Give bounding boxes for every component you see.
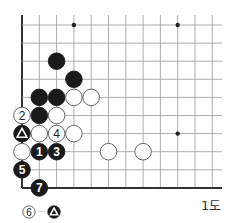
move-number: 5: [19, 163, 26, 177]
black-stone: [31, 89, 48, 106]
move-note: 6···: [23, 206, 60, 218]
go-board-diagram: 241357 6···: [0, 0, 236, 223]
black-stone-icon: [66, 71, 83, 88]
black-stone: [48, 89, 65, 106]
stones-layer: 241357: [14, 53, 152, 196]
star-point-icon: [72, 23, 76, 27]
black-stone: 3: [48, 143, 65, 160]
white-stone: [83, 89, 100, 106]
black-stone: [48, 53, 65, 70]
white-stone: [66, 125, 83, 142]
diagram-caption: 1도: [201, 195, 220, 214]
white-stone: [100, 143, 117, 160]
black-stone: 7: [31, 180, 48, 197]
star-point-icon: [176, 131, 180, 135]
white-stone-icon: [48, 107, 65, 124]
black-stone-icon: [48, 89, 65, 106]
move-number: 3: [53, 145, 60, 159]
white-stone: 2: [14, 107, 31, 124]
black-stone: [14, 125, 31, 142]
white-stone: [48, 107, 65, 124]
star-point-icon: [176, 23, 180, 27]
white-stone-icon: [66, 89, 83, 106]
white-stone-icon: [31, 125, 48, 142]
white-stone: 6: [23, 206, 35, 218]
black-stone: 5: [14, 162, 31, 179]
black-stone: [66, 71, 83, 88]
move-number: 2: [19, 109, 26, 123]
black-stone-icon: [31, 89, 48, 106]
white-stone: 4: [48, 125, 65, 142]
move-number: 7: [36, 181, 43, 195]
white-stone-icon: [66, 125, 83, 142]
white-stone: [14, 143, 31, 160]
black-stone: 1: [31, 143, 48, 160]
white-stone-icon: [100, 143, 117, 160]
move-number: 6: [26, 207, 32, 218]
white-stone: [135, 143, 152, 160]
black-stone: [31, 107, 48, 124]
black-stone-icon: [31, 107, 48, 124]
white-stone-icon: [14, 143, 31, 160]
note-connector: ···: [38, 207, 46, 216]
move-number: 4: [53, 127, 60, 141]
black-stone-icon: [48, 53, 65, 70]
white-stone-icon: [135, 143, 152, 160]
black-stone: [48, 206, 60, 218]
white-stone: [66, 89, 83, 106]
white-stone: [31, 125, 48, 142]
move-number: 1: [36, 145, 43, 159]
white-stone-icon: [83, 89, 100, 106]
